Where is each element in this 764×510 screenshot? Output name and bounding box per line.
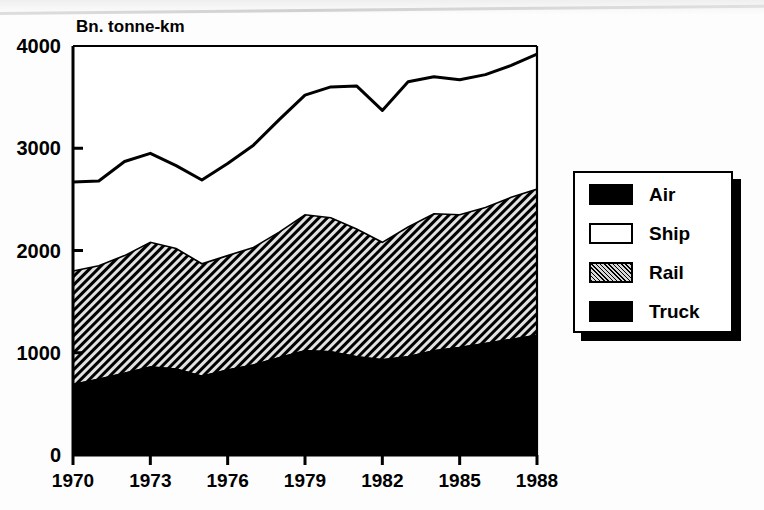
x-tick-label: 1979: [284, 470, 326, 491]
x-tick-label: 1976: [207, 470, 249, 491]
y-tick-label: 2000: [17, 240, 62, 262]
legend-swatch-ship: [589, 223, 633, 244]
chart-unit-title: Bn. tonne-km: [76, 17, 185, 36]
x-tick-label: 1985: [439, 470, 482, 491]
legend-swatch-truck: [589, 301, 633, 322]
legend-item-rail[interactable]: Rail: [575, 255, 731, 290]
legend-label-air: Air: [649, 184, 675, 206]
y-tick-label: 1000: [17, 342, 62, 364]
legend-swatch-air: [589, 184, 633, 205]
y-tick-label: 4000: [17, 35, 62, 57]
legend-item-air[interactable]: Air: [575, 177, 731, 212]
legend-item-truck[interactable]: Truck: [575, 294, 731, 329]
x-tick-label: 1973: [129, 470, 171, 491]
y-tick-label: 3000: [17, 137, 62, 159]
legend-swatch-rail: [589, 262, 633, 283]
legend-label-rail: Rail: [649, 262, 684, 284]
legend-label-ship: Ship: [649, 223, 690, 245]
legend-label-truck: Truck: [649, 301, 700, 323]
chart-legend: Air Ship Rail Truck: [573, 171, 733, 333]
y-tick-label: 0: [50, 444, 61, 466]
legend-item-ship[interactable]: Ship: [575, 216, 731, 251]
x-tick-label: 1982: [361, 470, 403, 491]
x-axis-ticks: 1970197319761979198219851988: [52, 455, 558, 491]
x-tick-label: 1988: [516, 470, 558, 491]
x-tick-label: 1970: [52, 470, 94, 491]
